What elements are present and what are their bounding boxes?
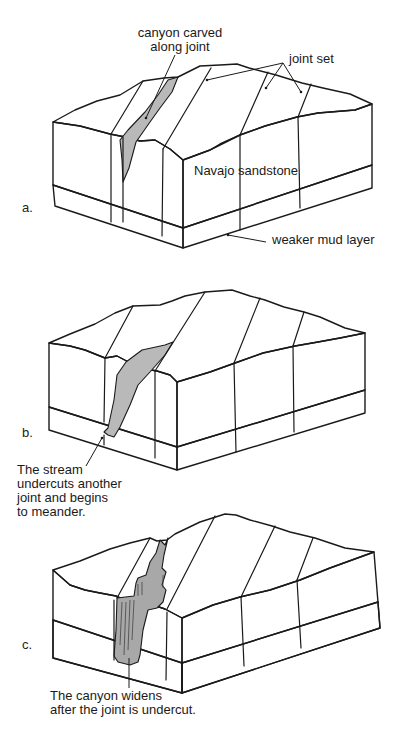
caption-line: to meander. [17, 505, 122, 519]
panel-letter-b: b. [22, 425, 33, 440]
caption-line: The stream [17, 463, 122, 477]
caption-canyon-widens: The canyon widens after the joint is und… [50, 689, 196, 717]
label-weaker-mud-layer: weaker mud layer [272, 233, 375, 247]
caption-line: undercuts another [17, 477, 122, 491]
label-canyon-carved: canyon carved along joint [130, 26, 230, 54]
caption-line: The canyon widens [50, 689, 196, 703]
canyon-a [120, 77, 178, 182]
diagram-canvas [0, 0, 399, 735]
label-navajo-sandstone: Navajo sandstone [194, 164, 298, 178]
caption-line: joint and begins [17, 491, 122, 505]
label-joint-set: joint set [289, 52, 334, 66]
canyon-c [114, 538, 168, 665]
panel-a-block [53, 55, 372, 248]
caption-stream-undercuts: The stream undercuts another joint and b… [17, 463, 122, 519]
panel-letter-a: a. [22, 200, 33, 215]
label-line: canyon carved [130, 26, 230, 40]
label-line: along joint [130, 40, 230, 54]
canyon-formation-diagram: a. b. c. canyon carved along joint joint… [0, 0, 399, 735]
panel-c-block [53, 514, 380, 693]
panel-b-block [49, 290, 365, 470]
caption-line: after the joint is undercut. [50, 703, 196, 717]
panel-letter-c: c. [22, 637, 32, 652]
